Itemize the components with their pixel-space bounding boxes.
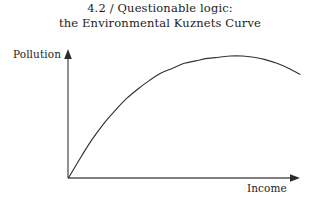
plot-area xyxy=(0,0,320,203)
kuznets-curve-path xyxy=(69,56,301,178)
x-axis-arrowhead-icon xyxy=(290,174,300,182)
y-axis-arrowhead-icon xyxy=(64,49,72,59)
environmental-kuznets-curve-figure: 4.2 / Questionable logic: the Environmen… xyxy=(0,0,320,203)
x-axis-label: Income xyxy=(247,182,287,194)
y-axis-label: Pollution xyxy=(13,48,61,60)
